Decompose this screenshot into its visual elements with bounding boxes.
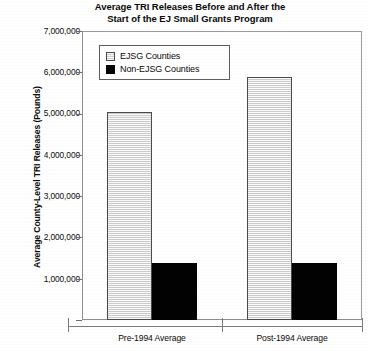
chart-title-line-1: Average TRI Releases Before and After th… <box>40 1 340 13</box>
bar-chart: Average TRI Releases Before and After th… <box>0 0 368 351</box>
bar-ejsg-group-1 <box>107 112 152 320</box>
bar-ejsg-group-2 <box>247 77 292 320</box>
chart-legend: EJSG Counties Non-EJSG Counties <box>99 45 230 80</box>
y-axis-title: Average County-Level TRI Releases (Pound… <box>32 52 42 302</box>
y-axis-tick-label: 1,000,000 <box>0 275 80 283</box>
y-axis-tick-mark <box>76 320 82 321</box>
legend-entry-non-ejsg: Non-EJSG Counties <box>106 63 229 76</box>
x-axis-tick-mark <box>68 318 69 332</box>
y-axis-tick-label: 4,000,000 <box>0 151 80 159</box>
x-axis-label-2: Post-1994 Average <box>222 333 362 343</box>
y-axis-tick-label: 5,000,000 <box>0 109 80 117</box>
x-axis-tick-mark <box>362 318 363 332</box>
x-axis-tick-mark <box>222 318 223 332</box>
x-axis-label-1: Pre-1994 Average <box>82 333 222 343</box>
legend-swatch-icon-non-ejsg <box>106 65 115 74</box>
x-axis-line <box>68 326 362 327</box>
legend-swatch-icon-ejsg <box>106 52 115 61</box>
y-axis-tick-label: 2,000,000 <box>0 233 80 241</box>
bar-non-ejsg-group-1 <box>152 263 197 320</box>
y-axis-tick-label: 3,000,000 <box>0 192 80 200</box>
y-axis-tick-label: 7,000,000 <box>0 27 80 35</box>
chart-title: Average TRI Releases Before and After th… <box>40 1 340 25</box>
legend-entry-ejsg: EJSG Counties <box>106 50 229 63</box>
legend-label-non-ejsg: Non-EJSG Counties <box>120 65 199 74</box>
chart-title-line-2: Start of the EJ Small Grants Program <box>40 13 340 25</box>
bar-non-ejsg-group-2 <box>292 263 337 320</box>
y-axis-tick-label: 6,000,000 <box>0 68 80 76</box>
legend-label-ejsg: EJSG Counties <box>120 52 180 61</box>
